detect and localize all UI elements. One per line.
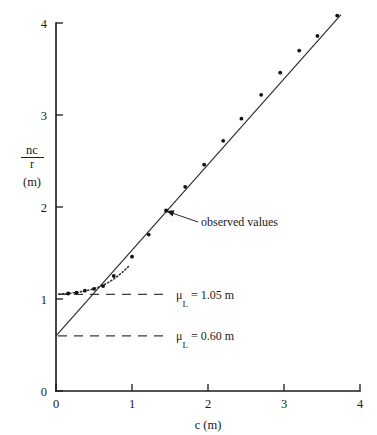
svg-text:μL = 1.05 m: μL = 1.05 m — [176, 288, 235, 309]
y-tick-label-3: 3 — [41, 109, 47, 123]
data-point — [75, 291, 79, 295]
reference-label-mu-0-60: μL = 0.60 m — [176, 329, 235, 350]
plot-canvas: 0 1 2 3 4 0 1 2 3 4 c (m) — [0, 0, 377, 435]
data-point — [101, 284, 105, 288]
svg-text:μL = 0.60 m: μL = 0.60 m — [176, 329, 235, 350]
mu-value-lower: = 0.60 m — [188, 329, 235, 343]
reference-label-mu-1-05: μL = 1.05 m — [176, 288, 235, 309]
x-tick-label-2: 2 — [205, 397, 211, 411]
y-tick-label-1: 1 — [41, 293, 47, 307]
data-point — [259, 93, 263, 97]
data-point — [221, 139, 225, 143]
data-points-group — [66, 14, 339, 296]
data-point — [83, 289, 87, 293]
data-point — [183, 185, 187, 189]
data-point — [147, 233, 151, 237]
annotation-arrowhead-icon — [167, 210, 175, 216]
x-tick-label-4: 4 — [357, 397, 364, 411]
x-tick-label-3: 3 — [281, 397, 287, 411]
annotation-label: observed values — [201, 215, 278, 229]
y-axis-unit: (m) — [12, 176, 52, 189]
data-point — [240, 117, 244, 121]
annotation-leader-line — [172, 213, 198, 222]
data-point — [297, 49, 301, 53]
data-point — [278, 71, 282, 75]
mu-value-upper: = 1.05 m — [188, 288, 235, 302]
y-tick-label-2: 2 — [41, 201, 47, 215]
data-point — [202, 163, 206, 167]
y-tick-labels: 0 1 2 3 4 — [41, 17, 48, 399]
data-point — [130, 255, 134, 259]
data-point — [66, 292, 70, 296]
x-tick-marks — [56, 384, 360, 391]
data-point — [112, 274, 116, 278]
y-tick-label-0: 0 — [41, 385, 47, 399]
x-tick-label-1: 1 — [129, 397, 135, 411]
x-axis-title: c (m) — [195, 418, 222, 432]
data-point — [164, 209, 168, 213]
y-axis-numerator: nc — [21, 144, 44, 158]
x-tick-label-0: 0 — [53, 397, 59, 411]
x-tick-labels: 0 1 2 3 4 — [53, 397, 364, 411]
chart-figure: 0 1 2 3 4 0 1 2 3 4 c (m) — [0, 0, 377, 435]
data-point — [316, 34, 320, 38]
data-point — [92, 287, 96, 291]
y-tick-label-4: 4 — [41, 17, 48, 31]
y-axis-title: nc r (m) — [12, 144, 52, 189]
observed-values-annotation: observed values — [167, 210, 279, 229]
data-point — [335, 14, 339, 18]
y-axis-denominator: r — [12, 158, 52, 171]
